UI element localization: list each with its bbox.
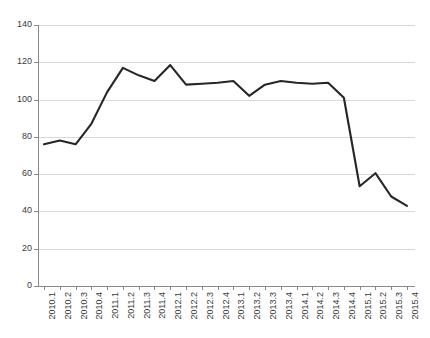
x-axis-tick-mark <box>76 286 77 290</box>
x-axis-tick-label: 2011.3 <box>143 292 152 319</box>
y-axis-tick-label: 80 <box>2 132 32 141</box>
y-axis-tick-mark <box>34 174 38 175</box>
x-axis-tick-mark <box>60 286 61 290</box>
y-axis-tick-mark <box>34 100 38 101</box>
x-axis-tick-mark <box>107 286 108 290</box>
y-axis-tick-mark <box>34 137 38 138</box>
x-axis-tick-label: 2010.2 <box>64 292 73 320</box>
x-axis-line <box>38 286 415 287</box>
x-axis-tick-mark <box>139 286 140 290</box>
x-axis-tick-mark <box>44 286 45 290</box>
x-axis-tick-label: 2015.3 <box>395 292 404 320</box>
y-axis-tick-label: 140 <box>2 20 32 29</box>
x-axis-tick-mark <box>265 286 266 290</box>
x-axis-tick-label: 2012.3 <box>206 292 215 320</box>
x-axis-tick-label: 2011.4 <box>158 292 167 319</box>
x-axis-tick-mark <box>328 286 329 290</box>
x-axis-tick-mark <box>154 286 155 290</box>
x-axis-tick-label: 2011.2 <box>127 292 136 319</box>
y-axis-tick-labels: 020406080100120140 <box>0 0 32 338</box>
y-axis-tick-mark <box>34 249 38 250</box>
y-axis-tick-label: 40 <box>2 206 32 215</box>
x-axis-tick-mark <box>375 286 376 290</box>
x-axis-tick-label: 2010.4 <box>95 292 104 320</box>
x-axis-tick-mark <box>391 286 392 290</box>
x-axis-tick-mark <box>233 286 234 290</box>
y-axis-tick-label: 120 <box>2 57 32 66</box>
x-axis-tick-label: 2015.4 <box>411 292 420 320</box>
y-axis-tick-mark <box>34 211 38 212</box>
y-axis-tick-label: 100 <box>2 95 32 104</box>
y-axis-tick-label: 0 <box>2 281 32 290</box>
y-axis-tick-label: 60 <box>2 169 32 178</box>
x-axis-tick-label: 2012.1 <box>174 292 183 320</box>
data-series-line <box>38 25 415 286</box>
y-axis-tick-mark <box>34 25 38 26</box>
x-axis-tick-label: 2014.1 <box>301 292 310 320</box>
y-axis-tick-mark <box>34 286 38 287</box>
x-axis-tick-label: 2013.3 <box>269 292 278 320</box>
x-axis-tick-mark <box>91 286 92 290</box>
x-axis-tick-label: 2015.2 <box>379 292 388 320</box>
x-axis-tick-label: 2014.4 <box>348 292 357 320</box>
x-axis-tick-mark <box>407 286 408 290</box>
x-axis-tick-mark <box>202 286 203 290</box>
x-axis-tick-label: 2012.4 <box>222 292 231 320</box>
x-axis-tick-mark <box>249 286 250 290</box>
x-axis-tick-label: 2015.1 <box>364 292 373 320</box>
x-axis-tick-mark <box>297 286 298 290</box>
x-axis-tick-mark <box>170 286 171 290</box>
x-axis-tick-mark <box>312 286 313 290</box>
x-axis-tick-mark <box>360 286 361 290</box>
x-axis-tick-mark <box>186 286 187 290</box>
x-axis-tick-label: 2013.2 <box>253 292 262 320</box>
line-chart: 020406080100120140 2010.12010.22010.3201… <box>0 0 430 338</box>
x-axis-tick-label: 2013.1 <box>237 292 246 320</box>
y-axis-tick-mark <box>34 62 38 63</box>
x-axis-tick-label: 2014.2 <box>316 292 325 320</box>
x-axis-tick-label: 2010.1 <box>48 292 57 320</box>
y-axis-tick-label: 20 <box>2 244 32 253</box>
x-axis-tick-label: 2013.4 <box>285 292 294 320</box>
x-axis-tick-label: 2012.2 <box>190 292 199 320</box>
x-axis-tick-mark <box>123 286 124 290</box>
x-axis-tick-mark <box>344 286 345 290</box>
x-axis-tick-mark <box>218 286 219 290</box>
x-axis-tick-mark <box>281 286 282 290</box>
x-axis-tick-label: 2011.1 <box>111 292 120 319</box>
x-axis-tick-label: 2014.3 <box>332 292 341 320</box>
x-axis-tick-label: 2010.3 <box>80 292 89 320</box>
